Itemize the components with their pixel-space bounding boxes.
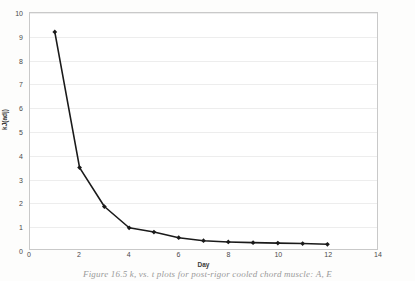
x-tick-label: 2 — [77, 251, 81, 258]
y-tick-label: 9 — [19, 33, 23, 40]
y-tick-label: 5 — [19, 129, 23, 136]
series-markers — [52, 30, 329, 247]
x-tick-label: 14 — [374, 251, 382, 258]
y-axis-title: kJ(adj) — [1, 97, 8, 143]
x-axis-title: Day — [29, 261, 378, 268]
y-tick-label: 3 — [19, 176, 23, 183]
y-tick-label: 8 — [19, 57, 23, 64]
data-point-marker — [300, 241, 305, 246]
x-tick-label: 8 — [226, 251, 230, 258]
data-point-marker — [275, 241, 280, 246]
y-tick-label: 2 — [19, 200, 23, 207]
y-tick-label: 6 — [19, 105, 23, 112]
plot-area — [29, 12, 378, 250]
y-tick-label: 0 — [19, 248, 23, 255]
figure-container: 012345678910 kJ(adj) 02468101214 Day Fig… — [0, 0, 415, 281]
y-tick-label: 1 — [19, 224, 23, 231]
data-point-marker — [201, 238, 206, 243]
data-point-marker — [251, 240, 256, 245]
data-point-marker — [176, 235, 181, 240]
x-tick-label: 0 — [27, 251, 31, 258]
y-tick-label: 7 — [19, 81, 23, 88]
data-point-marker — [52, 30, 57, 35]
series-polyline — [55, 32, 328, 244]
y-tick-label: 4 — [19, 152, 23, 159]
data-point-marker — [152, 230, 157, 235]
data-series-line — [30, 13, 377, 249]
x-tick-label: 6 — [177, 251, 181, 258]
figure-caption: Figure 16.5 k, vs. t plots for post-rigo… — [0, 269, 415, 279]
y-tick-label: 10 — [15, 10, 23, 17]
x-tick-label: 4 — [127, 251, 131, 258]
data-point-marker — [325, 242, 330, 247]
data-point-marker — [226, 240, 231, 245]
x-tick-label: 12 — [324, 251, 332, 258]
x-tick-label: 10 — [274, 251, 282, 258]
